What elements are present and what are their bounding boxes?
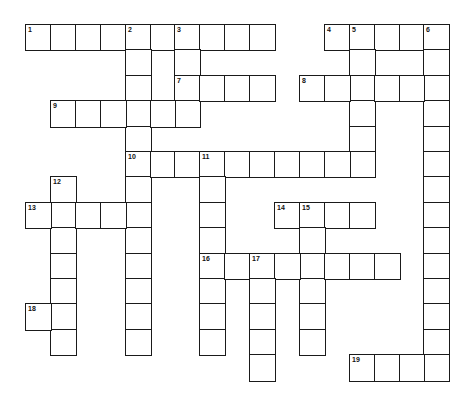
cell-letter-input[interactable]: [200, 152, 225, 177]
crossword-cell[interactable]: 3: [174, 24, 201, 51]
cell-letter-input[interactable]: [424, 304, 449, 330]
crossword-cell[interactable]: [423, 49, 450, 77]
cell-letter-input[interactable]: [375, 254, 400, 279]
cell-letter-input[interactable]: [424, 76, 449, 101]
crossword-cell[interactable]: [299, 227, 326, 255]
cell-letter-input[interactable]: [300, 203, 325, 228]
crossword-cell[interactable]: 16: [199, 253, 226, 280]
crossword-cell[interactable]: [50, 253, 77, 280]
crossword-cell[interactable]: [249, 75, 276, 102]
crossword-cell[interactable]: [199, 227, 226, 255]
crossword-cell[interactable]: [324, 151, 351, 178]
crossword-cell[interactable]: [199, 278, 226, 305]
cell-letter-input[interactable]: [300, 76, 325, 101]
cell-letter-input[interactable]: [151, 152, 175, 177]
cell-letter-input[interactable]: [375, 76, 400, 101]
crossword-cell[interactable]: [423, 227, 450, 255]
crossword-cell[interactable]: [324, 253, 351, 280]
cell-letter-input[interactable]: [325, 203, 350, 228]
cell-letter-input[interactable]: [200, 228, 225, 254]
crossword-cell[interactable]: 7: [174, 75, 201, 102]
crossword-cell[interactable]: [423, 329, 450, 356]
crossword-cell[interactable]: [75, 100, 102, 128]
crossword-cell[interactable]: [423, 303, 450, 331]
crossword-cell[interactable]: [374, 354, 401, 382]
cell-letter-input[interactable]: [200, 304, 225, 330]
cell-letter-input[interactable]: [300, 330, 325, 355]
crossword-cell[interactable]: [150, 24, 176, 51]
crossword-cell[interactable]: [75, 202, 102, 229]
crossword-cell[interactable]: [125, 75, 152, 102]
crossword-cell[interactable]: [423, 253, 450, 280]
cell-letter-input[interactable]: [350, 101, 375, 127]
cell-letter-input[interactable]: [51, 254, 76, 279]
crossword-cell[interactable]: [423, 202, 450, 229]
crossword-cell[interactable]: [299, 329, 326, 356]
crossword-cell[interactable]: [174, 100, 201, 128]
crossword-cell[interactable]: [199, 303, 226, 331]
crossword-cell[interactable]: [174, 49, 201, 77]
cell-letter-input[interactable]: [76, 101, 101, 127]
crossword-cell[interactable]: [349, 75, 376, 102]
cell-letter-input[interactable]: [325, 152, 350, 177]
crossword-cell[interactable]: [249, 354, 276, 382]
crossword-cell[interactable]: [50, 329, 77, 356]
cell-letter-input[interactable]: [424, 127, 449, 152]
cell-letter-input[interactable]: [424, 330, 449, 355]
crossword-cell[interactable]: [249, 329, 276, 356]
crossword-cell[interactable]: [125, 49, 152, 77]
cell-letter-input[interactable]: [350, 25, 375, 50]
cell-letter-input[interactable]: [424, 101, 449, 127]
cell-letter-input[interactable]: [250, 279, 275, 304]
cell-letter-input[interactable]: [350, 50, 375, 76]
cell-letter-input[interactable]: [225, 25, 250, 50]
crossword-cell[interactable]: [125, 100, 152, 128]
cell-letter-input[interactable]: [200, 279, 225, 304]
cell-letter-input[interactable]: [126, 203, 151, 228]
crossword-cell[interactable]: 2: [125, 24, 152, 51]
crossword-cell[interactable]: [199, 202, 226, 229]
cell-letter-input[interactable]: [51, 203, 76, 228]
cell-letter-input[interactable]: [250, 355, 275, 381]
crossword-cell[interactable]: [150, 151, 176, 178]
cell-letter-input[interactable]: [126, 279, 151, 304]
cell-letter-input[interactable]: [151, 25, 175, 50]
cell-letter-input[interactable]: [424, 254, 449, 279]
cell-letter-input[interactable]: [400, 25, 424, 50]
crossword-cell[interactable]: [224, 151, 251, 178]
cell-letter-input[interactable]: [400, 355, 424, 381]
cell-letter-input[interactable]: [126, 50, 151, 76]
crossword-cell[interactable]: [399, 354, 425, 382]
cell-letter-input[interactable]: [350, 127, 375, 152]
crossword-cell[interactable]: [349, 151, 376, 178]
cell-letter-input[interactable]: [26, 203, 51, 228]
crossword-cell[interactable]: [299, 253, 326, 280]
cell-letter-input[interactable]: [300, 228, 325, 254]
cell-letter-input[interactable]: [76, 203, 101, 228]
cell-letter-input[interactable]: [126, 101, 151, 127]
crossword-cell[interactable]: 6: [423, 24, 450, 51]
crossword-cell[interactable]: [125, 253, 152, 280]
cell-letter-input[interactable]: [300, 254, 325, 279]
cell-letter-input[interactable]: [26, 25, 51, 50]
cell-letter-input[interactable]: [275, 152, 300, 177]
crossword-cell[interactable]: [299, 151, 326, 178]
cell-letter-input[interactable]: [51, 101, 76, 127]
crossword-cell[interactable]: 4: [324, 24, 351, 51]
cell-letter-input[interactable]: [250, 330, 275, 355]
crossword-cell[interactable]: [125, 227, 152, 255]
cell-letter-input[interactable]: [325, 76, 350, 101]
crossword-cell[interactable]: [125, 329, 152, 356]
crossword-cell[interactable]: [423, 278, 450, 305]
cell-letter-input[interactable]: [300, 152, 325, 177]
cell-letter-input[interactable]: [225, 76, 250, 101]
cell-letter-input[interactable]: [126, 76, 151, 101]
cell-letter-input[interactable]: [151, 101, 175, 127]
crossword-cell[interactable]: [423, 151, 450, 178]
cell-letter-input[interactable]: [275, 203, 300, 228]
cell-letter-input[interactable]: [250, 25, 275, 50]
cell-letter-input[interactable]: [424, 355, 449, 381]
crossword-cell[interactable]: [349, 100, 376, 128]
cell-letter-input[interactable]: [175, 101, 200, 127]
cell-letter-input[interactable]: [350, 152, 375, 177]
